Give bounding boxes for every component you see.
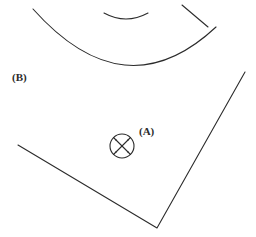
polygon-corner-edges — [18, 72, 245, 228]
monument-symbol — [110, 134, 134, 158]
figure-canvas: (B) (A) — [0, 0, 256, 237]
large-arc-curve — [33, 9, 216, 65]
monument-tick-nw — [114, 138, 117, 141]
branch-line-segment — [182, 5, 208, 27]
label-a: (A) — [139, 126, 154, 137]
label-b: (B) — [12, 72, 27, 83]
figure-drawing — [0, 0, 256, 237]
small-arc-curve — [104, 13, 148, 19]
monument-tick-sw — [114, 152, 117, 155]
monument-tick-se — [128, 152, 131, 155]
monument-tick-ne — [128, 138, 131, 141]
